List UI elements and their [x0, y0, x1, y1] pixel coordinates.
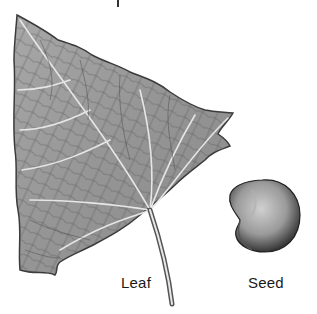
seed-icon — [230, 180, 300, 252]
illustration: Leaf Seed — [0, 0, 317, 314]
seed-label: Seed — [248, 274, 284, 291]
stem — [150, 210, 172, 304]
cropped-text-fragment — [117, 0, 119, 7]
leaf-icon — [14, 15, 233, 275]
leaf-label: Leaf — [121, 274, 151, 291]
leaf-and-seed-drawing — [0, 0, 317, 314]
